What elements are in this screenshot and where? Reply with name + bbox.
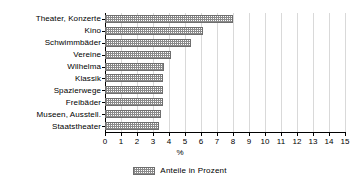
category-label: Kino: [0, 26, 101, 35]
gridline: [297, 13, 298, 132]
value-tick: [217, 132, 218, 136]
bar: [105, 39, 191, 47]
bar-chart: Theater, KonzerteKinoSchwimmbäderVereine…: [0, 0, 360, 188]
value-tick: [137, 132, 138, 136]
bar: [105, 63, 164, 71]
x-axis-title: %: [0, 148, 360, 158]
category-label: Museen, Ausstell.: [0, 110, 101, 119]
gridline: [329, 13, 330, 132]
value-tick: [249, 132, 250, 136]
gridline: [313, 13, 314, 132]
category-tick: [102, 78, 105, 79]
bar: [105, 15, 233, 23]
category-label: Schwimmbäder: [0, 38, 101, 47]
gridline: [217, 13, 218, 132]
category-label: Staatstheater: [0, 122, 101, 131]
value-tick: [281, 132, 282, 136]
gridline: [249, 13, 250, 132]
category-tick: [102, 19, 105, 20]
legend-swatch-icon: [133, 167, 155, 175]
category-tick: [102, 55, 105, 56]
value-axis-line: [105, 132, 345, 133]
category-label: Freibäder: [0, 98, 101, 107]
value-tick: [201, 132, 202, 136]
category-label: Spazierwege: [0, 86, 101, 95]
category-label: Wilhelma: [0, 62, 101, 71]
value-tick: [233, 132, 234, 136]
gridline: [265, 13, 266, 132]
bar: [105, 86, 163, 94]
gridline: [233, 13, 234, 132]
category-tick: [102, 102, 105, 103]
value-tick: [153, 132, 154, 136]
legend-label: Anteile in Prozent: [160, 166, 226, 176]
category-label: Theater, Konzerte: [0, 14, 101, 23]
category-axis-labels: Theater, KonzerteKinoSchwimmbäderVereine…: [0, 13, 101, 132]
bar: [105, 98, 163, 106]
value-tick: [297, 132, 298, 136]
category-tick: [102, 67, 105, 68]
category-tick: [102, 114, 105, 115]
category-tick: [102, 43, 105, 44]
category-tick: [102, 90, 105, 91]
gridline: [281, 13, 282, 132]
value-tick: [329, 132, 330, 136]
value-tick: [185, 132, 186, 136]
gridline: [345, 13, 346, 132]
plot-area: [105, 13, 345, 132]
value-tick: [345, 132, 346, 136]
category-label: Vereine: [0, 50, 101, 59]
value-tick: [105, 132, 106, 136]
bar: [105, 122, 159, 130]
bar: [105, 110, 161, 118]
value-tick: [121, 132, 122, 136]
value-tick: [169, 132, 170, 136]
category-tick: [102, 31, 105, 32]
category-tick: [102, 126, 105, 127]
legend: Anteile in Prozent: [0, 166, 360, 176]
category-label: Klassik: [0, 74, 101, 83]
value-tick: [313, 132, 314, 136]
value-tick-label: 15: [335, 137, 355, 147]
bar: [105, 74, 163, 82]
value-tick: [265, 132, 266, 136]
bar: [105, 27, 203, 35]
bar: [105, 51, 171, 59]
